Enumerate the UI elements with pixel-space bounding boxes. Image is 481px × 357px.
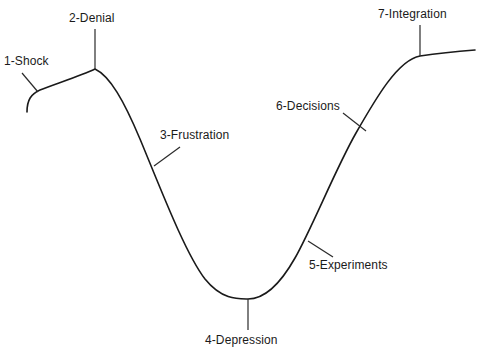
stage-label-frustration: 3-Frustration [160, 128, 229, 142]
stage-label-decisions: 6-Decisions [276, 99, 340, 113]
change-curve-diagram: 1-Shock 2-Denial 3-Frustration 4-Depress… [0, 0, 481, 357]
stage-label-depression: 4-Depression [205, 333, 278, 347]
change-curve-path [27, 50, 475, 299]
stage-label-integration: 7-Integration [378, 7, 447, 21]
leader-line-experiments [308, 241, 333, 257]
stage-label-denial: 2-Denial [69, 11, 115, 25]
leader-line-shock [22, 73, 38, 92]
curve-canvas [0, 0, 481, 357]
leader-line-frustration [154, 147, 180, 166]
stage-label-shock: 1-Shock [4, 54, 49, 68]
stage-label-experiments: 5-Experiments [309, 258, 388, 272]
